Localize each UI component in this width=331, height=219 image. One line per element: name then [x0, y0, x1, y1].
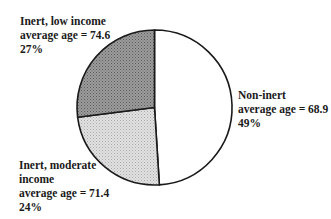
label-inert-moderate-percent: 24% — [19, 200, 109, 214]
label-inert-low-income: Inert, low income average age = 74.6 27% — [20, 14, 110, 56]
label-non-inert: Non-inert average age = 68.9 49% — [238, 88, 328, 130]
label-non-inert-percent: 49% — [238, 116, 328, 130]
label-inert-moderate-age: average age = 71.4 — [19, 186, 109, 200]
label-non-inert-name: Non-inert — [238, 88, 328, 102]
label-inert-moderate-name-2: income — [19, 172, 109, 186]
label-inert-low-percent: 27% — [20, 42, 110, 56]
label-inert-low-name: Inert, low income — [20, 14, 110, 28]
label-inert-moderate-name-1: Inert, moderate — [19, 158, 109, 172]
pie-slice-non-inert — [155, 30, 233, 185]
label-non-inert-age: average age = 68.9 — [238, 102, 328, 116]
label-inert-moderate-income: Inert, moderate income average age = 71.… — [19, 158, 109, 214]
label-inert-low-age: average age = 74.6 — [20, 28, 110, 42]
